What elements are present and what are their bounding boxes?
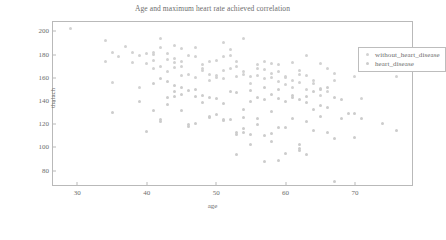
data-point	[312, 129, 315, 132]
data-point	[333, 96, 336, 99]
data-point	[208, 96, 211, 99]
data-point	[194, 122, 197, 125]
data-point	[229, 67, 232, 70]
y-axis-label: thalach	[49, 71, 57, 125]
data-point	[353, 136, 356, 139]
data-point	[145, 62, 148, 65]
data-point	[138, 86, 141, 89]
data-point	[270, 72, 273, 75]
data-point	[305, 95, 308, 98]
data-point	[229, 54, 232, 57]
data-point	[256, 123, 259, 126]
data-point	[159, 46, 162, 49]
data-point	[326, 86, 329, 89]
data-point	[360, 97, 363, 100]
legend-item-heart-disease[interactable]: heart_disease	[363, 59, 440, 68]
data-point	[229, 118, 232, 121]
data-point	[201, 94, 204, 97]
data-point	[333, 79, 336, 82]
data-point	[152, 109, 155, 112]
data-point	[319, 88, 322, 91]
data-point	[347, 112, 350, 115]
data-point	[208, 115, 211, 118]
data-point	[291, 86, 294, 89]
data-point	[395, 129, 398, 132]
data-point	[270, 93, 273, 96]
data-point	[194, 55, 197, 58]
y-tick-label: 100	[39, 143, 50, 151]
data-point	[242, 127, 245, 130]
data-point	[353, 75, 356, 78]
data-point	[180, 86, 183, 89]
data-point	[312, 108, 315, 111]
data-point	[235, 131, 238, 134]
data-point	[277, 80, 280, 83]
data-point	[326, 106, 329, 109]
data-point	[256, 96, 259, 99]
data-point	[208, 79, 211, 82]
data-point	[159, 77, 162, 80]
data-point	[194, 88, 197, 91]
data-point	[277, 97, 280, 100]
data-point	[270, 140, 273, 143]
data-point	[173, 61, 176, 64]
data-point	[111, 51, 114, 54]
data-point	[270, 76, 273, 79]
data-point	[298, 98, 301, 101]
y-tick-label: 140	[39, 97, 50, 105]
data-point	[256, 67, 259, 70]
data-point	[166, 70, 169, 73]
data-point	[173, 90, 176, 93]
data-point	[326, 90, 329, 93]
data-point	[180, 47, 183, 50]
data-point	[111, 81, 114, 84]
data-point	[208, 60, 211, 63]
data-point	[305, 120, 308, 123]
data-point	[124, 45, 127, 48]
data-point	[305, 88, 308, 91]
data-point	[222, 41, 225, 44]
data-point	[131, 51, 134, 54]
data-point	[222, 77, 225, 80]
data-point	[187, 125, 190, 128]
data-point	[235, 91, 238, 94]
y-tick-label: 120	[39, 120, 50, 128]
data-point	[138, 54, 141, 57]
data-point	[173, 66, 176, 69]
data-point	[235, 153, 238, 156]
data-point	[305, 74, 308, 77]
data-point	[249, 82, 252, 85]
data-point	[305, 54, 308, 57]
data-point	[395, 75, 398, 78]
x-tick-label: 30	[74, 189, 81, 197]
data-point	[152, 59, 155, 62]
data-point	[180, 60, 183, 63]
data-point	[138, 100, 141, 103]
data-point	[215, 59, 218, 62]
data-point	[215, 76, 218, 79]
data-point	[180, 109, 183, 112]
data-point	[222, 55, 225, 58]
data-point	[291, 61, 294, 64]
data-point	[249, 143, 252, 146]
data-point	[187, 54, 190, 57]
legend-item-without-heart-disease[interactable]: without_heart_disease	[363, 50, 440, 59]
data-point	[298, 69, 301, 72]
data-point	[333, 72, 336, 75]
data-point	[166, 103, 169, 106]
data-point	[319, 115, 322, 118]
data-point	[242, 37, 245, 40]
data-point	[180, 93, 183, 96]
data-point	[117, 55, 120, 58]
data-point	[166, 96, 169, 99]
data-point	[235, 75, 238, 78]
data-point	[263, 160, 266, 163]
data-point	[298, 73, 301, 76]
data-point	[340, 117, 343, 120]
data-point	[291, 117, 294, 120]
data-point	[263, 68, 266, 71]
data-point	[333, 137, 336, 140]
data-point	[277, 70, 280, 73]
data-point	[166, 52, 169, 55]
data-point	[263, 98, 266, 101]
